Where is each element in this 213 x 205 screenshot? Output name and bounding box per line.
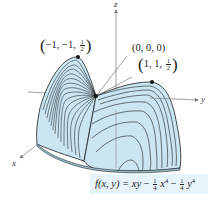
label-max-left: (−1, −1, 12)	[40, 37, 91, 54]
point-max-right	[150, 80, 154, 84]
label-max-right: (1, 1, 12)	[138, 56, 178, 73]
point-origin	[94, 94, 98, 98]
y-axis-label: y	[201, 95, 205, 104]
point-max-left	[76, 55, 80, 59]
label-origin: (0, 0, 0)	[132, 43, 165, 54]
x-axis-label: x	[12, 159, 16, 168]
z-axis-label: z	[114, 0, 118, 9]
x-axis	[20, 144, 38, 158]
function-formula: f(x, y) = xy − 14 x4 − 14 y4	[95, 177, 195, 192]
